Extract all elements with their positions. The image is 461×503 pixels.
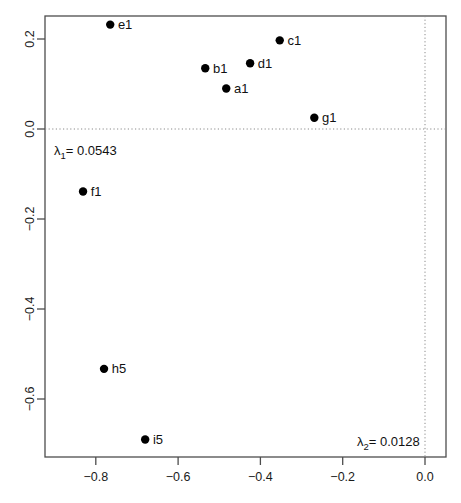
- lambda-1-text: λ1= 0.0543: [54, 143, 117, 161]
- plot-canvas: −0.8−0.6−0.4−0.20.0 0.20.0−0.2−0.4−0.6 e…: [0, 0, 461, 503]
- point-marker-i5: [141, 435, 149, 443]
- point-label-d1: d1: [258, 56, 272, 71]
- point-marker-e1: [106, 20, 114, 28]
- data-point-i5: i5: [141, 432, 163, 447]
- scatter-plot-figure: −0.8−0.6−0.4−0.20.0 0.20.0−0.2−0.4−0.6 e…: [0, 0, 461, 503]
- x-tick-label: −0.6: [166, 470, 191, 484]
- point-marker-c1: [276, 36, 284, 44]
- x-tick-label: −0.8: [83, 470, 108, 484]
- point-marker-b1: [201, 64, 209, 72]
- lambda-2-value: = 0.0128: [369, 434, 420, 449]
- point-marker-a1: [222, 84, 230, 92]
- point-label-a1: a1: [234, 81, 248, 96]
- point-label-i5: i5: [153, 432, 163, 447]
- lambda-1-annotation: λ1= 0.0543: [54, 143, 117, 161]
- point-marker-h5: [100, 365, 108, 373]
- lambda-1-value: = 0.0543: [66, 143, 117, 158]
- data-point-c1: c1: [276, 33, 302, 48]
- data-point-a1: a1: [222, 81, 248, 96]
- data-point-group: e1c1d1b1a1g1f1h5i5: [79, 17, 337, 447]
- lambda-2-text: λ2= 0.0128: [357, 434, 420, 452]
- point-label-g1: g1: [322, 110, 336, 125]
- data-point-g1: g1: [310, 110, 336, 125]
- y-tick-label: −0.4: [23, 297, 37, 322]
- point-label-f1: f1: [91, 184, 102, 199]
- data-point-h5: h5: [100, 361, 126, 376]
- data-point-d1: d1: [246, 56, 272, 71]
- data-point-e1: e1: [106, 17, 132, 32]
- x-tick-label: 0.0: [416, 470, 433, 484]
- point-label-b1: b1: [213, 61, 227, 76]
- point-marker-g1: [310, 114, 318, 122]
- y-tick-label: 0.0: [23, 120, 37, 137]
- x-tick-label: −0.2: [330, 470, 355, 484]
- y-tick-label: 0.2: [23, 30, 37, 47]
- y-tick-label: −0.2: [23, 207, 37, 232]
- point-label-c1: c1: [287, 33, 301, 48]
- data-point-f1: f1: [79, 184, 102, 199]
- point-label-e1: e1: [118, 17, 132, 32]
- point-label-h5: h5: [112, 361, 126, 376]
- y-tick-label: −0.6: [23, 387, 37, 412]
- point-marker-d1: [246, 59, 254, 67]
- x-axis-ticks: −0.8−0.6−0.4−0.20.0: [83, 457, 433, 484]
- point-marker-f1: [79, 187, 87, 195]
- lambda-2-annotation: λ2= 0.0128: [357, 434, 420, 452]
- data-point-b1: b1: [201, 61, 227, 76]
- x-tick-label: −0.4: [248, 470, 273, 484]
- y-axis-ticks: 0.20.0−0.2−0.4−0.6: [23, 30, 45, 411]
